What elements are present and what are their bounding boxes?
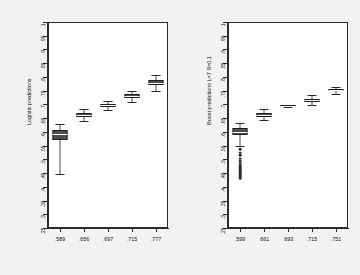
median-line — [101, 105, 116, 106]
median-line — [305, 100, 320, 101]
x-axis-tick-label: .697 — [103, 236, 113, 242]
y-axis-tick-label: .55 — [40, 145, 46, 152]
whisker-cap-upper — [56, 124, 65, 125]
y-axis-tick-label-wrap: .65 — [33, 118, 43, 119]
y-axis-tick-label-wrap: .45 — [213, 173, 223, 174]
y-axis-tick-label-wrap: .3 — [213, 214, 223, 215]
whisker-cap-lower — [128, 102, 137, 103]
x-axis-tick — [336, 228, 337, 232]
x-axis-tick — [240, 228, 241, 232]
x-axis-tick — [312, 228, 313, 232]
y-axis-tick-label-wrap: .85 — [33, 63, 43, 64]
y-axis-tick-label-wrap: .8 — [33, 77, 43, 78]
y-axis-tick-label: .75 — [220, 90, 226, 97]
y-axis-tick-label-wrap: .35 — [213, 201, 223, 202]
y-axis-tick-label: .6 — [220, 133, 226, 137]
whisker-cap-upper — [308, 95, 317, 96]
y-axis-tick-label: 1 — [220, 24, 226, 27]
y-axis-tick-label-wrap: .95 — [33, 36, 43, 37]
y-axis-tick-label-wrap: .5 — [33, 159, 43, 160]
x-axis-tick — [264, 228, 265, 232]
y-axis-tick-label-wrap: .75 — [213, 91, 223, 92]
x-axis-tick-label: .693 — [283, 236, 293, 242]
x-axis-tick — [156, 228, 157, 232]
y-axis-tick-label: .45 — [40, 173, 46, 180]
x-axis-tick — [132, 228, 133, 232]
whisker-cap-upper — [80, 109, 89, 110]
y-axis-tick-label-wrap: .3 — [33, 214, 43, 215]
median-line — [233, 132, 248, 133]
x-axis-tick — [84, 228, 85, 232]
y-axis-tick-label: .6 — [40, 133, 46, 137]
x-axis-tick-label: .777 — [151, 236, 161, 242]
x-axis-tick-label: .661 — [259, 236, 269, 242]
y-axis-tick-label-wrap: .6 — [213, 132, 223, 133]
plot-area-left — [48, 22, 168, 228]
y-axis-tick-label: .55 — [220, 145, 226, 152]
y-axis-tick-label: .5 — [40, 160, 46, 164]
y-axis-tick-label-wrap: .65 — [213, 118, 223, 119]
median-line — [257, 115, 272, 116]
y-axis-tick-label: .45 — [220, 173, 226, 180]
y-axis-tick-label-wrap: .9 — [33, 49, 43, 50]
x-axis-tick — [60, 228, 61, 232]
median-line — [149, 83, 164, 84]
y-axis-tick-label: .35 — [40, 200, 46, 207]
y-axis-tick-label-wrap: .4 — [213, 187, 223, 188]
y-axis-tick-label: .3 — [40, 215, 46, 219]
whisker-cap-upper — [104, 101, 113, 102]
y-axis-tick-label-wrap: .75 — [33, 91, 43, 92]
whisker-lower — [240, 135, 241, 146]
y-axis-tick-label-wrap: .9 — [213, 49, 223, 50]
whisker-cap-lower — [56, 174, 65, 175]
y-axis-tick-label: .9 — [220, 50, 226, 54]
whisker-cap-lower — [284, 107, 293, 108]
whisker-cap-lower — [236, 146, 245, 147]
x-axis-tick — [108, 228, 109, 232]
y-axis-tick-label: .25 — [220, 228, 226, 235]
outlier-point — [239, 154, 242, 157]
median-line — [53, 134, 68, 135]
y-axis-tick-label: .25 — [40, 228, 46, 235]
y-axis-line-right — [227, 22, 228, 229]
outlier-point — [239, 148, 242, 151]
y-axis-tick-label: .95 — [40, 35, 46, 42]
y-axis-tick-label: .35 — [220, 200, 226, 207]
y-axis-tick-label-wrap: .35 — [33, 201, 43, 202]
panel-boost-predictions: Boost predictions L=7 S=0.1 .25.3.35.4.4… — [180, 0, 360, 275]
y-axis-title-left: Logistic predictions — [26, 78, 32, 125]
y-axis-tick-label: .8 — [40, 78, 46, 82]
whisker-cap-lower — [104, 110, 113, 111]
x-axis-tick-label: .715 — [127, 236, 137, 242]
x-axis-tick — [288, 228, 289, 232]
median-line — [77, 115, 92, 116]
whisker-cap-lower — [152, 91, 161, 92]
y-axis-tick-label-wrap: .85 — [213, 63, 223, 64]
whisker-cap-lower — [332, 94, 341, 95]
panel-logistic-predictions: Logistic predictions .25.3.35.4.45.5.55.… — [0, 0, 180, 275]
x-axis-tick-label: .656 — [79, 236, 89, 242]
whisker-cap-lower — [260, 120, 269, 121]
y-axis-tick-label: .8 — [220, 78, 226, 82]
y-axis-tick-label: .65 — [40, 118, 46, 125]
y-axis-tick-label-wrap: 1 — [213, 22, 223, 23]
y-axis-tick-label: .4 — [40, 188, 46, 192]
median-line — [329, 90, 344, 91]
whisker-cap-upper — [152, 75, 161, 76]
y-axis-tick-label-wrap: .5 — [213, 159, 223, 160]
median-line — [125, 96, 140, 97]
y-axis-tick-label-wrap: 1 — [33, 22, 43, 23]
whisker-cap-upper — [128, 91, 137, 92]
y-axis-tick-label-wrap: .4 — [33, 187, 43, 188]
boxplot-figure: Logistic predictions .25.3.35.4.45.5.55.… — [0, 0, 360, 275]
whisker-cap-upper — [260, 109, 269, 110]
y-axis-tick-label: .4 — [220, 188, 226, 192]
plot-area-right — [228, 22, 348, 228]
y-axis-tick-label-wrap: .95 — [213, 36, 223, 37]
y-axis-tick-label: .85 — [40, 63, 46, 70]
y-axis-tick-label: .85 — [220, 63, 226, 70]
whisker-cap-upper — [236, 123, 245, 124]
x-axis-tick-label: .715 — [307, 236, 317, 242]
y-axis-tick-label-wrap: .8 — [213, 77, 223, 78]
y-axis-line-left — [47, 22, 48, 229]
